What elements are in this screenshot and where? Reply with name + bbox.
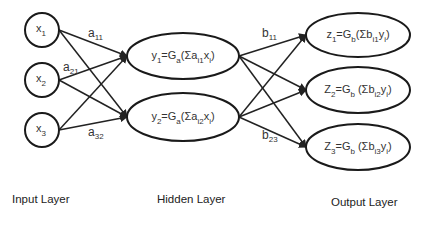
weight-b23: b23 <box>262 128 278 144</box>
x1-label: x1 <box>36 22 46 37</box>
z1-equation: z1=Gb(Σbi1yi) <box>326 28 389 43</box>
x3-label: x3 <box>36 122 46 137</box>
weight-a32: a32 <box>88 125 104 141</box>
input-hidden-edges <box>59 30 127 130</box>
z2-equation: Z2=Gb (Σbi2yi) <box>324 83 391 98</box>
output-layer-label: Output Layer <box>331 196 397 208</box>
z3-equation: Z3=Gb (Σbi3yi) <box>324 140 391 155</box>
input-layer-label: Input Layer <box>12 193 70 205</box>
weight-a11: a11 <box>88 26 103 42</box>
weight-b11: b11 <box>262 26 277 42</box>
x2-label: x2 <box>36 72 46 87</box>
y1-equation: y1=Ga(Σai1xi) <box>151 49 214 64</box>
weight-a21: a21 <box>63 60 79 76</box>
hidden-layer-label: Hidden Layer <box>157 193 225 205</box>
y2-equation: y2=Ga(Σai2xi) <box>151 110 214 125</box>
